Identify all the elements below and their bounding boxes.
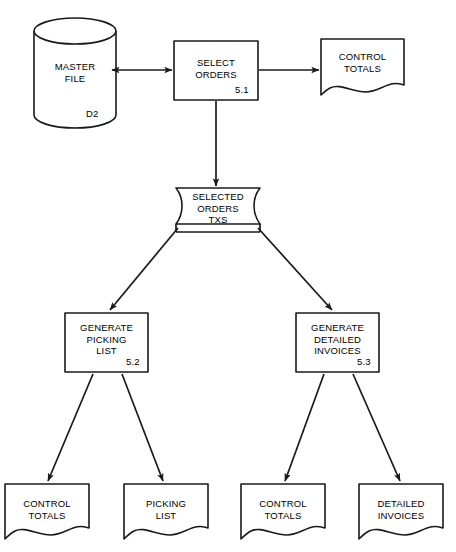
- diagram-canvas: [0, 0, 456, 552]
- edge-picking-to-control-totals-left: [48, 374, 93, 481]
- node-selected-orders-txs: [176, 188, 260, 232]
- node-master-file: [34, 18, 116, 128]
- corner-id-generate-picking-list: 5.2: [126, 356, 140, 367]
- corner-id-generate-detailed-invoices: 5.3: [357, 356, 371, 367]
- node-control-totals-top: [321, 39, 404, 95]
- edge-picking-to-picking-list: [122, 374, 163, 481]
- node-control-totals-left: [5, 484, 89, 539]
- data-flow-diagram: MASTER FILE D2 SELECT ORDERS 5.1 CONTROL…: [0, 0, 456, 552]
- corner-id-select-orders: 5.1: [235, 84, 249, 95]
- node-control-totals-right: [241, 484, 325, 539]
- edge-txs-to-generate-detailed-invoices: [258, 228, 332, 310]
- edge-txs-to-generate-picking-list: [110, 228, 178, 310]
- node-picking-list: [124, 484, 208, 539]
- node-detailed-invoices: [359, 484, 443, 539]
- corner-id-master-file: D2: [86, 108, 98, 119]
- edge-invoices-to-control-totals-right: [285, 374, 324, 481]
- edge-invoices-to-detailed-invoices: [353, 374, 400, 481]
